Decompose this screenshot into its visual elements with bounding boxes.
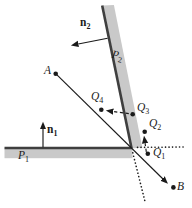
point-b-dot: [171, 185, 176, 190]
point-q1-label: Q1: [153, 147, 165, 162]
point-q3-dot: [130, 112, 135, 117]
point-q4-label: Q4: [91, 91, 103, 106]
point-a-label: A: [44, 65, 51, 80]
point-q2-dot: [142, 129, 147, 134]
plane-p2: [102, 5, 142, 149]
mirror-planes-diagram: A B P1 P2 n1 n2 Q1 Q2 Q3 Q4: [0, 0, 192, 208]
point-q1-dot: [146, 152, 151, 157]
point-a-dot: [53, 71, 58, 76]
normal-n2-arrow: [77, 38, 108, 44]
point-q3-label: Q3: [137, 102, 149, 117]
ray-a-to-b: [56, 74, 164, 180]
point-q2-label: Q2: [149, 118, 161, 133]
plane-p2-slab: [103, 5, 142, 149]
normal-n1-label: n1: [47, 124, 57, 139]
point-q4-dot: [99, 107, 104, 112]
normal-n2-label: n2: [80, 17, 90, 32]
point-b-label: B: [177, 181, 184, 196]
plane-p1-label: P1: [18, 150, 29, 165]
